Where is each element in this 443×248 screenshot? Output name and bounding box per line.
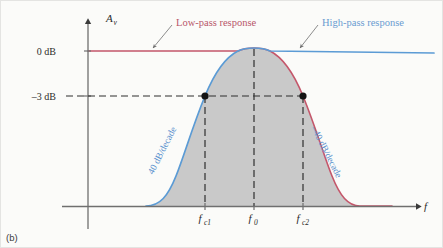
x-tick-label-fc1-subscript: c1 bbox=[204, 218, 211, 227]
fc1-marker-dot bbox=[201, 92, 208, 99]
high-pass-callout-label: High-pass response bbox=[322, 17, 404, 28]
y-tick-label-minus3db: –3 dB bbox=[31, 91, 57, 102]
slope-label-rising: 40 dB/decade bbox=[146, 125, 179, 176]
y-axis-label-subscript: v bbox=[114, 18, 118, 27]
x-axis-label: f bbox=[424, 200, 429, 212]
x-tick-label-fc2: f bbox=[296, 212, 301, 224]
y-tick-label-0db: 0 dB bbox=[37, 46, 57, 57]
figure-panel: A v f 0 dB –3 dB f c1 f 0 f c2 Low-pass bbox=[0, 0, 443, 248]
low-pass-callout-leader bbox=[153, 25, 172, 48]
x-tick-label-fc1: f bbox=[198, 212, 203, 224]
x-tick-label-f0: f bbox=[248, 212, 253, 224]
x-tick-label-f0-subscript: 0 bbox=[254, 218, 258, 227]
high-pass-callout-leader bbox=[300, 25, 318, 48]
x-tick-label-fc2-subscript: c2 bbox=[302, 218, 309, 227]
fc2-marker-dot bbox=[299, 92, 306, 99]
figure-caption: (b) bbox=[6, 232, 18, 243]
y-axis-label: A bbox=[105, 12, 113, 24]
bandpass-response-diagram: A v f 0 dB –3 dB f c1 f 0 f c2 Low-pass bbox=[0, 0, 443, 248]
low-pass-callout-label: Low-pass response bbox=[176, 17, 257, 28]
